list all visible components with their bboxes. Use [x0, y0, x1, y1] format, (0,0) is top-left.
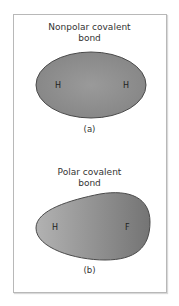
bond-diagrams: H H H F [0, 0, 179, 306]
polar-title-line2: bond [0, 178, 179, 189]
caption-b: (b) [0, 265, 179, 275]
caption-a: (a) [0, 124, 179, 134]
atom-label-h: H [52, 223, 58, 232]
nonpolar-electron-cloud [36, 52, 146, 118]
atom-label-h-left: H [55, 81, 61, 90]
atom-label-f: F [125, 223, 130, 232]
polar-title-line1: Polar covalent [0, 167, 179, 178]
atom-label-h-right: H [123, 81, 129, 90]
polar-title: Polar covalent bond [0, 167, 179, 189]
